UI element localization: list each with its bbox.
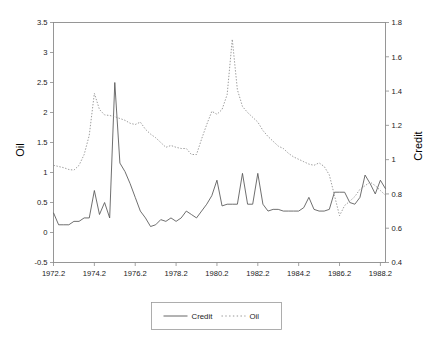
y2-tick-label: 1.8: [392, 18, 403, 27]
chart-figure: 1972.21974.21976.21978.21980.21982.21984…: [0, 0, 432, 350]
x-axis-ticks: 1972.21974.21976.21978.21980.21982.21984…: [42, 263, 392, 279]
series-line-oil: [54, 39, 386, 215]
plot-area-border: [54, 23, 386, 263]
y-tick-label: 2: [43, 108, 47, 117]
legend-label-oil: Oil: [250, 312, 260, 321]
plot-frame: [54, 23, 386, 263]
y-tick-label: 2.5: [37, 78, 48, 87]
y-axis-left-ticks: -0.500.511.522.533.5: [34, 18, 53, 267]
x-tick-label: 1974.2: [83, 269, 106, 278]
y-tick-label: -0.5: [34, 258, 47, 267]
data-series: [54, 39, 386, 226]
x-tick-label: 1980.2: [205, 269, 228, 278]
legend-label-credit: Credit: [192, 312, 214, 321]
chart-legend: CreditOil: [152, 303, 282, 330]
y-tick-label: 3: [43, 48, 47, 57]
x-tick-label: 1978.2: [164, 269, 187, 278]
x-tick-label: 1982.2: [246, 269, 269, 278]
x-tick-label: 1972.2: [42, 269, 65, 278]
y-tick-label: 3.5: [37, 18, 48, 27]
y2-tick-label: 0.4: [392, 258, 403, 267]
y-tick-label: 0: [43, 228, 47, 237]
y-tick-label: 1.5: [37, 138, 48, 147]
y2-tick-label: 1.2: [392, 121, 403, 130]
y2-tick-label: 1.6: [392, 53, 403, 62]
y-axis-right-ticks: 0.40.60.811.21.41.61.8: [386, 18, 403, 267]
dual-axis-line-chart: 1972.21974.21976.21978.21980.21982.21984…: [0, 0, 432, 350]
y-tick-label: 0.5: [37, 198, 48, 207]
x-tick-label: 1984.2: [287, 269, 310, 278]
y2-tick-label: 0.6: [392, 224, 403, 233]
x-tick-label: 1976.2: [124, 269, 147, 278]
x-tick-label: 1986.2: [328, 269, 351, 278]
y2-tick-label: 0.8: [392, 190, 403, 199]
y-axis-left-title: Oil: [14, 143, 26, 156]
y-axis-right-title: Credit: [412, 131, 424, 160]
y2-tick-label: 1.4: [392, 87, 403, 96]
y2-tick-label: 1: [392, 155, 396, 164]
x-tick-label: 1988.2: [369, 269, 392, 278]
series-line-credit: [54, 83, 386, 227]
y-tick-label: 1: [43, 168, 47, 177]
